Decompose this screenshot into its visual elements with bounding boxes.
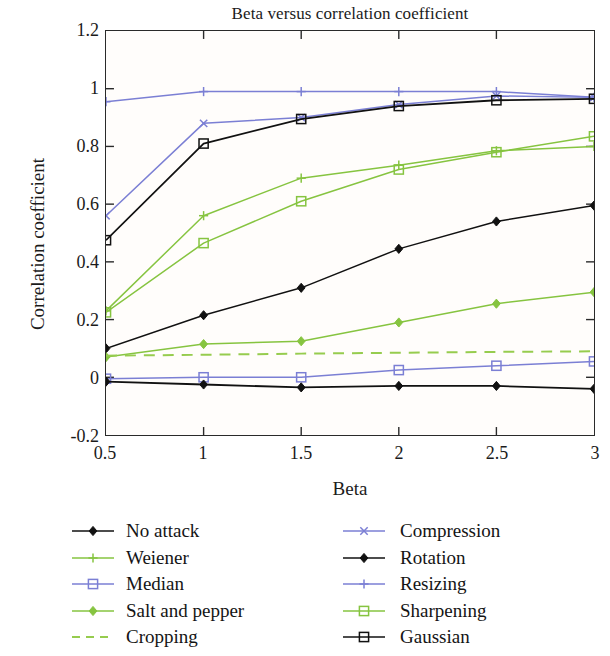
- legend-line-icon: [341, 520, 387, 542]
- y-tick-label: 0.2: [41, 311, 99, 329]
- series-rotation: [106, 201, 594, 353]
- chart-title: Beta versus correlation coefficient: [105, 4, 595, 24]
- series-gaussian: [106, 94, 594, 245]
- legend-swatch: [341, 520, 387, 542]
- y-tick-label: 1: [41, 79, 99, 97]
- series-no-attack: [106, 377, 594, 393]
- legend-item-cropping[interactable]: Cropping: [70, 624, 319, 651]
- legend-line-icon: [341, 600, 387, 622]
- legend-line-icon: [70, 600, 116, 622]
- y-tick-label: 0: [41, 369, 99, 387]
- y-tick-label: 0.6: [41, 195, 99, 213]
- legend-line-icon: [70, 573, 116, 595]
- x-tick-label: 0.5: [80, 444, 130, 462]
- legend-line-icon: [341, 547, 387, 569]
- series-cropping: [106, 351, 594, 355]
- legend-label: Weiener: [126, 548, 189, 568]
- legend-item-sharpening[interactable]: Sharpening: [341, 598, 590, 625]
- x-tick-label: 1: [178, 444, 228, 462]
- series-sharpening: [106, 132, 594, 317]
- y-tick-label: 1.2: [41, 21, 99, 39]
- legend-column-left: No attackWeienerMedianSalt and pepperCro…: [70, 518, 319, 653]
- series-median: [106, 357, 594, 383]
- legend-swatch: [70, 600, 116, 622]
- legend-swatch: [341, 626, 387, 648]
- legend-line-icon: [341, 626, 387, 648]
- legend-label: Resizing: [400, 574, 467, 594]
- legend-label: No attack: [126, 521, 199, 541]
- legend-swatch: [70, 547, 116, 569]
- legend-line-icon: [341, 573, 387, 595]
- legend-label: Gaussian: [400, 627, 470, 647]
- x-tick-label: 2.5: [472, 444, 522, 462]
- series-compression: [106, 92, 594, 219]
- x-tick-label: 1.5: [276, 444, 326, 462]
- legend-label: Sharpening: [400, 601, 487, 621]
- legend-item-gaussian[interactable]: Gaussian: [341, 624, 590, 651]
- legend-label: Cropping: [126, 627, 198, 647]
- y-tick-label: 0.8: [41, 137, 99, 155]
- chart-legend: No attackWeienerMedianSalt and pepperCro…: [70, 518, 590, 653]
- legend-item-weiener[interactable]: Weiener: [70, 545, 319, 572]
- legend-item-no-attack[interactable]: No attack: [70, 518, 319, 545]
- y-axis-label: Correlation coefficient: [27, 114, 49, 374]
- y-tick-label: 0.4: [41, 253, 99, 271]
- x-tick-label: 2: [374, 444, 424, 462]
- legend-label: Salt and pepper: [126, 601, 244, 621]
- legend-label: Median: [126, 574, 184, 594]
- x-tick-label: 3: [570, 444, 610, 462]
- x-axis-tick-labels: 0.511.522.53: [105, 444, 595, 468]
- legend-swatch: [341, 600, 387, 622]
- legend-swatch: [341, 573, 387, 595]
- series-salt-and-pepper: [106, 288, 594, 362]
- legend-item-resizing[interactable]: Resizing: [341, 571, 590, 598]
- legend-swatch: [341, 547, 387, 569]
- legend-item-rotation[interactable]: Rotation: [341, 545, 590, 572]
- legend-swatch: [70, 520, 116, 542]
- legend-column-right: CompressionRotationResizingSharpeningGau…: [319, 518, 590, 653]
- legend-item-compression[interactable]: Compression: [341, 518, 590, 545]
- legend-line-icon: [70, 520, 116, 542]
- y-tick-label: -0.2: [41, 427, 99, 445]
- legend-line-icon: [70, 547, 116, 569]
- plot-series-svg: [106, 31, 594, 435]
- legend-label: Compression: [400, 521, 500, 541]
- legend-swatch: [70, 626, 116, 648]
- legend-item-salt-and-pepper[interactable]: Salt and pepper: [70, 598, 319, 625]
- plot-area: [105, 30, 595, 436]
- legend-swatch: [70, 573, 116, 595]
- legend-line-icon: [70, 626, 116, 648]
- legend-label: Rotation: [400, 548, 465, 568]
- legend-item-median[interactable]: Median: [70, 571, 319, 598]
- chart-figure: Beta versus correlation coefficient -0.2…: [0, 0, 610, 656]
- x-axis-label: Beta: [105, 478, 595, 500]
